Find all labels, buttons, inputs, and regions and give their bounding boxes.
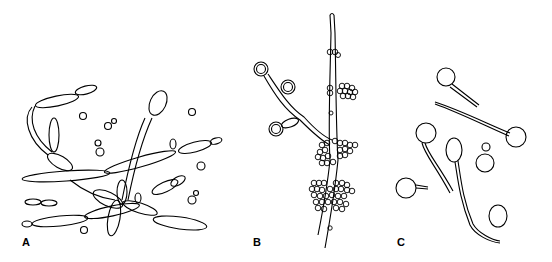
panel-a-drawing: [22, 83, 223, 236]
figure-canvas: [0, 0, 552, 262]
panel-label-b: B: [253, 236, 261, 248]
panel-label-a: A: [22, 236, 30, 248]
panel-label-c: C: [397, 236, 405, 248]
panel-b-drawing: [254, 14, 358, 249]
panel-c-drawing: [396, 68, 526, 243]
